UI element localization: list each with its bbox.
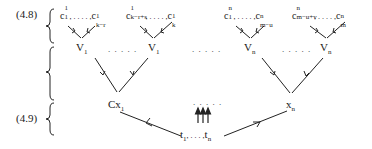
ellipsis-2: . . . . .: [192, 45, 221, 54]
node-cx1: Cx1: [108, 99, 124, 110]
triple-up-arrows-icon: [196, 108, 211, 123]
node-vn-b: Vn: [320, 42, 331, 53]
top-group-3: cn1 , . . . . ,cnm−u: [224, 11, 260, 21]
ellipsis-arrows: . . . . .: [193, 98, 222, 107]
node-v1-b: V1: [148, 42, 159, 53]
node-vn-a: Vn: [244, 42, 255, 53]
ellipsis-3: . . . . .: [282, 45, 311, 54]
brace-4-9: [46, 103, 54, 135]
node-xn: xn: [286, 99, 295, 110]
node-v1-a: V1: [76, 42, 87, 53]
equation-label-4-8: (4.8): [16, 9, 37, 20]
edges-middle: [95, 58, 323, 93]
brace-middle: [46, 47, 54, 100]
diagram-canvas: [0, 0, 372, 149]
edges-top: [68, 22, 345, 38]
node-t1-tn: t1, . . . ,tn: [180, 129, 211, 140]
top-group-2: c1k−r+s , . . . . ,c1k: [126, 11, 172, 21]
top-group-1: c11 , . . . . ,c1k−r: [60, 11, 96, 21]
brace-4-8: [46, 9, 54, 43]
top-group-4: cnm−u+v , . . . . ,cnm: [292, 11, 340, 21]
equation-label-4-9: (4.9): [16, 113, 37, 124]
ellipsis-1: . . . . .: [108, 45, 137, 54]
